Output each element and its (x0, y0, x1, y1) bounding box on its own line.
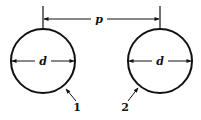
pitch-dimension: p (44, 13, 159, 26)
pitch-label: p (95, 13, 103, 26)
leader-line-1 (66, 89, 76, 101)
circle-number-1: 1 (73, 101, 81, 114)
leader-line-2 (128, 88, 138, 101)
diameter-label-1: d (39, 55, 47, 68)
diagram-canvas: p d 1 d 2 (0, 0, 201, 120)
circle-1: d 1 (11, 29, 81, 114)
diameter-label-2: d (156, 55, 164, 68)
circle-number-2: 2 (121, 101, 129, 114)
circle-2: d 2 (121, 29, 192, 114)
